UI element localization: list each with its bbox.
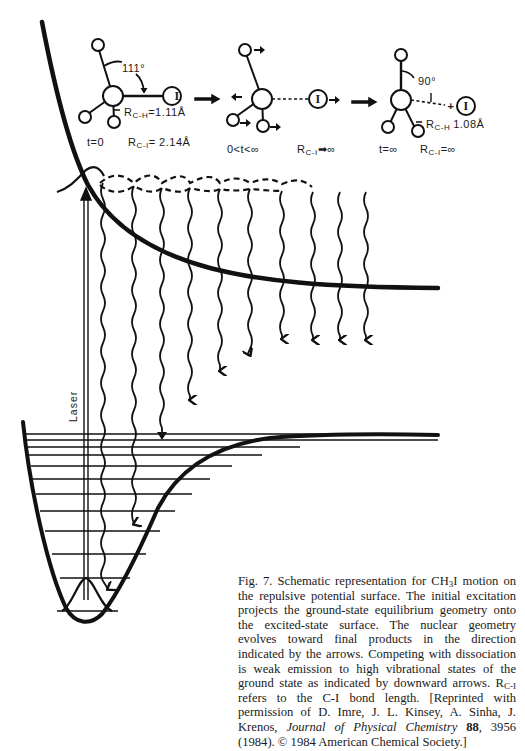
hydrogen-atom: [412, 125, 424, 137]
emission-arrow: [364, 192, 368, 340]
wave-packet-evolution: [57, 167, 312, 192]
progress-arrow: [352, 98, 376, 106]
repulsive-potential-curve: [42, 22, 438, 288]
emission-arrows: [101, 183, 368, 589]
time-label-final: t=∞: [379, 143, 398, 155]
distance-ci-final: RC-I=∞: [420, 143, 456, 157]
emission-arrow: [248, 189, 252, 355]
iodine-label: I: [315, 92, 320, 106]
carbon-atom: [103, 86, 123, 106]
emission-arrow: [311, 192, 315, 340]
carbon-atom: [391, 90, 411, 110]
hydrogen-atom: [395, 49, 407, 61]
caption-text-1: Fig. 7. Schematic representation for CH: [238, 574, 449, 588]
caption-volume: 88: [466, 720, 479, 734]
figure-caption: Fig. 7. Schematic representation for CH3…: [238, 574, 516, 749]
molecule-intermediate: [227, 44, 327, 132]
time-label-initial: t=0: [87, 136, 104, 148]
caption-text-2: I motion on the repulsive potential surf…: [238, 574, 516, 690]
emission-arrow: [218, 189, 222, 371]
carbon-atom: [252, 89, 272, 109]
emission-arrow: [338, 192, 342, 340]
emission-arrow: [160, 188, 164, 436]
hydrogen-atom: [108, 116, 120, 128]
iodine-label: I: [174, 89, 179, 103]
hydrogen-atom: [382, 121, 394, 133]
plus-sign: +: [448, 100, 455, 112]
caption-journal: Journal of Physical Chemistry: [286, 720, 457, 734]
laser-label: Laser: [67, 391, 79, 422]
caption-sub-2: C-I: [504, 681, 516, 691]
emission-arrow: [280, 191, 284, 339]
angle-label-111: 111°: [122, 62, 145, 74]
progress-arrow: [195, 95, 219, 103]
bond-length-ch-final: RC-H1.08Å: [426, 118, 485, 132]
angle-label-90: 90°: [418, 75, 436, 87]
distance-ci-initial: RC-I= 2.14Å: [128, 136, 191, 150]
time-label-intermediate: 0<t<∞: [227, 143, 259, 155]
bond-length-ch-initial: RC-H=1.11Å: [124, 106, 186, 120]
hydrogen-atom: [239, 44, 251, 56]
hydrogen-atom: [257, 120, 269, 132]
hydrogen-atom: [79, 111, 91, 123]
emission-arrow: [101, 183, 108, 589]
laser-excitation-arrow: [81, 188, 91, 600]
iodine-label: I: [463, 99, 468, 113]
hydrogen-atom: [227, 114, 239, 126]
distance-ci-intermediate: RC-I➡∞: [297, 143, 335, 157]
hydrogen-atom: [92, 39, 104, 51]
emission-arrow: [188, 188, 192, 400]
